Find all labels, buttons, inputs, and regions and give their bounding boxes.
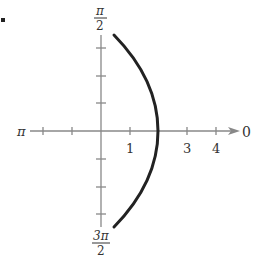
zero-label: 0 [242,124,251,140]
top-label-num: π [95,4,105,18]
pi-label: π [16,124,26,139]
bullet-dot [1,18,5,22]
tick-label-3: 3 [183,141,191,156]
top-label-den: 2 [96,19,104,33]
bottom-label-num: 3π [93,229,110,243]
plot-canvas: π 0 1 3 4 π 2 3π 2 [0,0,254,264]
tick-label-1: 1 [126,141,134,156]
bottom-label-den: 2 [97,244,105,258]
tick-label-4: 4 [212,141,220,156]
polar-graph: π 0 1 3 4 π 2 3π 2 [0,0,254,264]
